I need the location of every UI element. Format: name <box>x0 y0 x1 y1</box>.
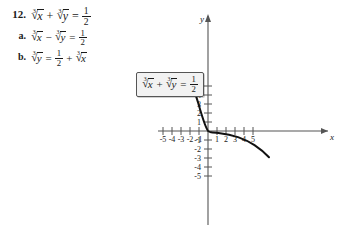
fraction-numerator: 1 <box>190 75 198 84</box>
x-axis-name: x <box>329 132 334 142</box>
part-letter-b: b. <box>4 49 30 62</box>
cube-root-x: 3√x <box>31 9 44 23</box>
x-axis-arrow-icon <box>321 128 328 134</box>
equation-callout-box: 3√x + 3√y = 1 2 <box>136 72 204 97</box>
y-axis-arrow-icon <box>205 14 211 22</box>
radicand: y <box>37 52 43 65</box>
plus-operator: + <box>66 53 72 64</box>
minus-operator: − <box>46 32 52 43</box>
y-tick-label: -1 <box>194 136 201 145</box>
radicand: x <box>37 31 43 44</box>
radicand: x <box>81 52 87 65</box>
x-tick-label: 2 <box>224 135 228 144</box>
fraction-one-half: 1 2 <box>79 29 87 48</box>
radicand: y <box>63 9 69 23</box>
radical-index: 3 <box>144 77 147 83</box>
coordinate-graph: -5 -4 -3 -2 -1 1 2 3 4 5 1 2 3 4 5 -1 -2… <box>150 0 342 242</box>
radicand: y <box>60 31 66 44</box>
fraction-numerator: 1 <box>79 29 87 38</box>
x-tick-label: -4 <box>169 135 176 144</box>
axes <box>158 14 328 225</box>
x-tick-label: 1 <box>215 135 219 144</box>
fraction-denominator: 2 <box>79 37 87 47</box>
radicand: x <box>148 78 154 91</box>
plus-operator: + <box>157 78 163 90</box>
radical-index: 3 <box>33 8 36 14</box>
fraction-one-half: 1 2 <box>55 49 63 68</box>
radical-index: 3 <box>33 30 36 36</box>
equals-sign: = <box>46 53 52 64</box>
problem-part-a-equation: 3√x − 3√y = 1 2 <box>30 28 88 47</box>
y-tick-label: -2 <box>194 145 201 154</box>
cube-root-y: 3√y <box>31 52 43 65</box>
fraction-numerator: 1 <box>55 49 63 58</box>
y-axis-name: y <box>199 14 204 24</box>
y-tick-label: -5 <box>194 172 201 181</box>
radical-index: 3 <box>56 30 59 36</box>
problem-part-a-row: a. 3√x − 3√y = 1 2 <box>4 28 164 47</box>
fraction-one-half: 1 2 <box>190 75 198 94</box>
fraction-denominator: 2 <box>55 58 63 68</box>
equals-sign: = <box>180 78 186 90</box>
fraction-numerator: 1 <box>82 6 91 16</box>
graph-svg: -5 -4 -3 -2 -1 1 2 3 4 5 1 2 3 4 5 -1 -2… <box>150 0 342 242</box>
problem-part-b-row: b. 3√y = 1 2 + 3√x <box>4 49 164 68</box>
problem-part-b-equation: 3√y = 1 2 + 3√x <box>30 49 88 68</box>
problem-main-equation: 3√x + 3√y = 1 2 <box>30 6 92 26</box>
fraction-denominator: 2 <box>190 84 198 94</box>
plus-operator: + <box>47 10 54 22</box>
x-tick-label: -5 <box>160 135 167 144</box>
cube-root-y: 3√y <box>56 9 69 23</box>
cube-root-x: 3√x <box>75 52 87 65</box>
x-tick-label: -3 <box>178 135 185 144</box>
y-tick-label: -4 <box>194 163 201 172</box>
radicand: y <box>171 78 177 91</box>
problem-main-row: 12. 3√x + 3√y = 1 2 <box>4 6 164 26</box>
cube-root-y: 3√y <box>166 78 178 91</box>
equals-sign: = <box>69 32 75 43</box>
problem-block: 12. 3√x + 3√y = 1 2 a. 3√x − 3√y <box>4 6 164 69</box>
callout-equation: 3√x + 3√y = 1 2 <box>141 75 199 94</box>
part-letter-a: a. <box>4 28 30 41</box>
cube-root-x: 3√x <box>31 31 43 44</box>
radical-index: 3 <box>58 8 61 14</box>
radical-index: 3 <box>167 77 170 83</box>
equals-sign: = <box>72 10 79 22</box>
y-tick-label: -3 <box>194 154 201 163</box>
y-tick-label: 1 <box>197 118 201 127</box>
fraction-denominator: 2 <box>82 16 91 27</box>
x-tick-label: -2 <box>187 135 194 144</box>
cube-root-x: 3√x <box>142 78 154 91</box>
cube-root-y: 3√y <box>55 31 67 44</box>
problem-number: 12. <box>4 6 30 20</box>
radical-index: 3 <box>77 51 80 57</box>
radicand: x <box>37 9 43 23</box>
fraction-one-half: 1 2 <box>82 6 91 26</box>
radical-index: 3 <box>33 51 36 57</box>
